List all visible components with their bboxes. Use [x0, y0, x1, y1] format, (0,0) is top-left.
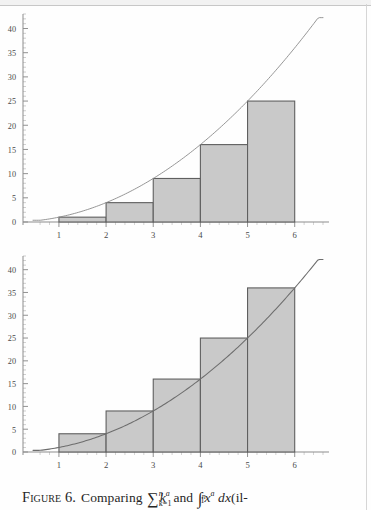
chart-upper-sum: 0510152025303540123456 [0, 248, 371, 470]
figure-caption: Figure 6.Comparing ∑nk=1ka and ∫n1xa dx(… [22, 486, 352, 508]
y-tick-label: 0 [12, 448, 16, 457]
bar [153, 379, 200, 452]
y-tick-label: 10 [8, 170, 16, 179]
bar [248, 288, 295, 452]
figure-page: 0510152025303540123456 05101520253035401… [0, 0, 371, 510]
y-tick-label: 5 [12, 194, 16, 203]
bar [200, 145, 247, 222]
figure-caption-text-before: Comparing [81, 490, 143, 505]
y-tick-label: 0 [12, 218, 16, 227]
figure-caption-text-after: (il- [231, 490, 248, 505]
y-tick-label: 40 [8, 266, 16, 275]
y-tick-label: 5 [12, 426, 16, 435]
integral-body-exponent: a [211, 489, 215, 498]
y-tick-label: 35 [8, 49, 16, 58]
y-tick-label: 25 [8, 97, 16, 106]
bar [248, 101, 295, 222]
y-tick-label: 10 [8, 403, 16, 412]
y-tick-label: 20 [8, 357, 16, 366]
summation-expression: ∑nk=1 [147, 491, 159, 508]
y-tick-label: 25 [8, 334, 16, 343]
x-tick-label: 4 [198, 230, 203, 240]
bar [200, 338, 247, 452]
x-tick-label: 6 [293, 460, 298, 470]
x-tick-label: 1 [57, 230, 61, 240]
y-tick-label: 20 [8, 122, 16, 131]
figure-caption-label: Figure 6. [22, 489, 76, 505]
chart-upper-sum-canvas: 0510152025303540123456 [0, 248, 371, 470]
y-tick-label: 15 [8, 380, 16, 389]
bar-group [59, 288, 295, 452]
bar [153, 178, 200, 222]
x-tick-label: 5 [245, 460, 249, 470]
integral-lower-limit: 1 [201, 493, 205, 509]
x-tick-label: 1 [57, 460, 61, 470]
x-tick-label: 2 [104, 230, 108, 240]
y-tick-label: 30 [8, 73, 16, 82]
chart-lower-sum: 0510152025303540123456 [0, 8, 371, 246]
chart-lower-sum-canvas: 0510152025303540123456 [0, 8, 371, 246]
integral-differential: dx [218, 490, 231, 505]
x-tick-label: 3 [151, 460, 155, 470]
x-tick-label: 2 [104, 460, 108, 470]
y-tick-label: 35 [8, 289, 16, 298]
figure-6: 0510152025303540123456 05101520253035401… [0, 0, 371, 510]
y-tick-label: 15 [8, 146, 16, 155]
x-tick-label: 4 [198, 460, 203, 470]
summation-lower-limit: k=1 [159, 496, 172, 510]
integral-expression: ∫n1 [198, 490, 203, 508]
x-tick-label: 5 [245, 230, 249, 240]
figure-caption-text-middle: and [173, 490, 193, 505]
x-tick-label: 6 [293, 230, 298, 240]
bar-group [59, 101, 295, 222]
x-tick-label: 3 [151, 230, 155, 240]
summation-symbol: ∑ [147, 490, 159, 507]
y-tick-label: 40 [8, 25, 16, 34]
bar [59, 217, 106, 222]
bar [106, 203, 153, 222]
y-tick-label: 30 [8, 312, 16, 321]
